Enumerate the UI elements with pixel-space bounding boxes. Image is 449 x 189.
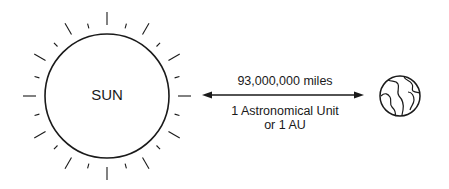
sun-ray <box>156 145 160 149</box>
sun-ray <box>88 24 89 29</box>
sun-ray <box>125 164 126 169</box>
sun-ray <box>35 114 40 115</box>
sun-label: SUN <box>82 86 132 103</box>
earth-icon <box>380 76 420 116</box>
sun-ray <box>175 114 180 115</box>
sun-ray <box>65 23 72 34</box>
arrowhead-right-icon <box>354 92 364 99</box>
sun-ray <box>143 23 150 34</box>
sun-ray <box>34 132 45 139</box>
au-label-line2: or 1 AU <box>205 118 365 132</box>
diagram-canvas <box>0 0 449 189</box>
sun-ray <box>88 164 89 169</box>
sun-ray <box>35 77 40 78</box>
sun-ray <box>65 157 72 168</box>
distance-arrow <box>202 92 364 99</box>
arrowhead-left-icon <box>202 92 212 99</box>
sun-ray <box>175 77 180 78</box>
astronomical-unit-label: 1 Astronomical Unit or 1 AU <box>205 104 365 132</box>
sun-ray <box>54 43 58 47</box>
distance-miles-label: 93,000,000 miles <box>205 74 365 88</box>
sun-ray <box>143 157 150 168</box>
sun-ray <box>54 145 58 149</box>
sun-ray <box>34 54 45 61</box>
sun-ray <box>125 24 126 29</box>
au-label-line1: 1 Astronomical Unit <box>205 104 365 118</box>
sun-ray <box>156 43 160 47</box>
sun-ray <box>168 132 179 139</box>
sun-ray <box>168 54 179 61</box>
